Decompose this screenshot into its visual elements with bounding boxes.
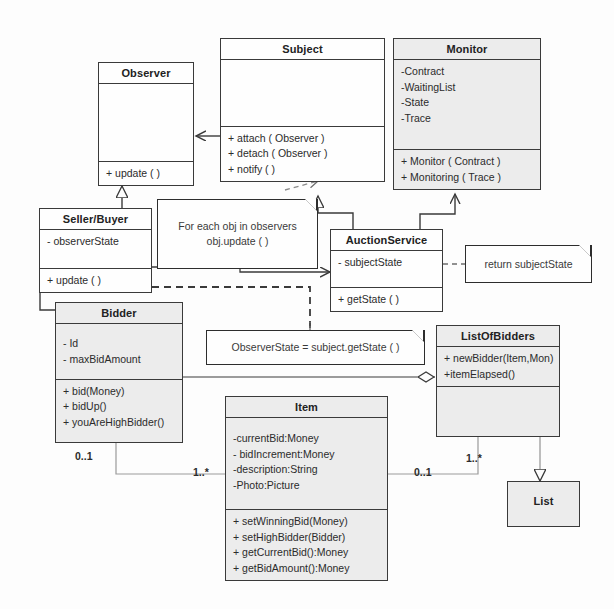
operation: + attach ( Observer ) <box>228 131 378 147</box>
attribute: - Id <box>63 336 176 352</box>
operation: + setHighBidder(Bidder) <box>233 530 381 546</box>
class-list-of-bidders-operations <box>437 387 559 436</box>
attribute: -State <box>401 95 534 111</box>
edge-sellerbuyer-to-bidder <box>40 293 55 310</box>
attribute: - bidIncrement:Money <box>233 447 381 463</box>
uml-class-diagram: Observer + update ( ) Subject + attach (… <box>0 0 614 609</box>
class-list[interactable]: List <box>507 481 580 527</box>
operation: + youAreHighBidder() <box>63 415 176 431</box>
edge-auctionservice-generalizes-subject <box>318 196 353 229</box>
operation: + getState ( ) <box>338 292 436 308</box>
class-seller-buyer-operations: + update ( ) <box>40 269 151 293</box>
class-observer[interactable]: Observer + update ( ) <box>98 62 194 186</box>
operation: + notify ( ) <box>228 162 378 178</box>
class-list-of-bidders[interactable]: ListOfBidders + newBidder(Item,Mon) +ite… <box>436 325 560 437</box>
operation: + bid(Money) <box>63 384 176 400</box>
operation: + getBidAmount():Money <box>233 561 381 577</box>
note-line: ObserverState = subject.getState ( ) <box>232 340 400 355</box>
class-bidder-operations: + bid(Money) + bidUp() + youAreHighBidde… <box>56 380 182 442</box>
class-item-attributes: -currentBid:Money - bidIncrement:Money -… <box>226 418 387 509</box>
dogear-corner-inner <box>579 245 590 256</box>
class-bidder[interactable]: Bidder - Id - maxBidAmount + bid(Money) … <box>55 302 183 443</box>
operation: + update ( ) <box>106 166 187 182</box>
multiplicity-item-listofbidders-right: 1..* <box>466 452 482 464</box>
class-list-of-bidders-title: ListOfBidders <box>437 326 559 346</box>
note-observer-state-assignment[interactable]: ObserverState = subject.getState ( ) <box>206 330 425 365</box>
class-subject[interactable]: Subject + attach ( Observer ) + detach (… <box>220 38 385 182</box>
attribute: -WaitingList <box>401 80 534 96</box>
class-seller-buyer-title: Seller/Buyer <box>40 209 151 229</box>
attribute: + newBidder(Item,Mon) <box>444 351 553 367</box>
class-observer-operations: + update ( ) <box>99 162 193 186</box>
class-seller-buyer[interactable]: Seller/Buyer - observerState + update ( … <box>39 208 152 293</box>
class-item-operations: + setWinningBid(Money) + setHighBidder(B… <box>226 510 387 580</box>
edge-note-foreach-to-subject <box>285 181 318 190</box>
attribute: - maxBidAmount <box>63 352 176 368</box>
operation: + detach ( Observer ) <box>228 146 378 162</box>
class-item[interactable]: Item -currentBid:Money - bidIncrement:Mo… <box>225 396 388 581</box>
attribute: -description:String <box>233 462 381 478</box>
class-item-title: Item <box>226 397 387 417</box>
class-monitor[interactable]: Monitor -Contract -WaitingList -State -T… <box>393 38 541 190</box>
attribute: - subjectState <box>338 255 436 271</box>
class-observer-title: Observer <box>99 63 193 83</box>
multiplicity-bidder-item-left: 0..1 <box>75 450 93 462</box>
class-auction-service-operations: + getState ( ) <box>331 288 442 312</box>
class-subject-operations: + attach ( Observer ) + detach ( Observe… <box>221 127 384 182</box>
operation: + update ( ) <box>47 273 145 289</box>
attribute: -Contract <box>401 64 534 80</box>
note-line: For each obj in observers <box>178 219 296 234</box>
attribute: -Trace <box>401 111 534 127</box>
class-bidder-title: Bidder <box>56 303 182 323</box>
edge-item-to-listofbidders <box>388 437 478 474</box>
class-subject-title: Subject <box>221 39 384 59</box>
note-line: obj.update ( ) <box>207 234 269 249</box>
class-seller-buyer-attributes: - observerState <box>40 230 151 268</box>
class-auction-service-attributes: - subjectState <box>331 251 442 287</box>
operation: + Monitor ( Contract ) <box>401 154 534 170</box>
dogear-corner-inner <box>305 199 316 210</box>
note-line: return subjectState <box>484 257 572 272</box>
edge-auctionservice-to-monitor <box>420 194 455 229</box>
operation: + setWinningBid(Money) <box>233 514 381 530</box>
class-monitor-title: Monitor <box>394 39 540 59</box>
note-return-subject-state[interactable]: return subjectState <box>465 245 592 283</box>
class-observer-attributes <box>99 84 193 161</box>
class-monitor-operations: + Monitor ( Contract ) + Monitoring ( Tr… <box>394 150 540 189</box>
note-for-each-obj[interactable]: For each obj in observers obj.update ( ) <box>157 199 318 269</box>
class-list-of-bidders-attributes: + newBidder(Item,Mon) +itemElapsed() <box>437 347 559 386</box>
class-list-title: List <box>508 482 579 511</box>
attribute: - observerState <box>47 234 145 250</box>
attribute: +itemElapsed() <box>444 367 553 383</box>
class-subject-attributes <box>221 60 384 126</box>
class-monitor-attributes: -Contract -WaitingList -State -Trace <box>394 60 540 149</box>
operation: + bidUp() <box>63 399 176 415</box>
class-bidder-attributes: - Id - maxBidAmount <box>56 324 182 379</box>
multiplicity-item-listofbidders-left: 0..1 <box>414 466 432 478</box>
class-auction-service[interactable]: AuctionService - subjectState + getState… <box>330 229 443 312</box>
operation: + Monitoring ( Trace ) <box>401 170 534 186</box>
dogear-corner-inner <box>412 330 423 341</box>
multiplicity-bidder-item-right: 1..* <box>193 466 209 478</box>
class-auction-service-title: AuctionService <box>331 230 442 250</box>
operation: + getCurrentBid():Money <box>233 545 381 561</box>
attribute: -currentBid:Money <box>233 431 381 447</box>
attribute: -Photo:Picture <box>233 478 381 494</box>
